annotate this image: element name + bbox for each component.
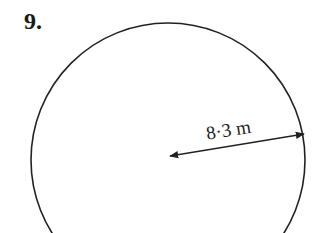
- circle-diagram: 8·3 m: [0, 0, 321, 233]
- radius-label: 8·3 m: [205, 116, 253, 144]
- circle-outline: [31, 23, 305, 233]
- figure-stage: 9. 8·3 m: [0, 0, 321, 233]
